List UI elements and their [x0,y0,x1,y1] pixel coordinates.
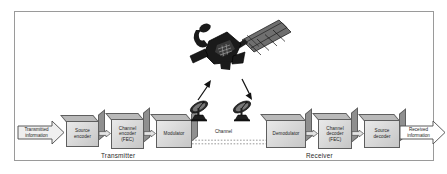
block-label-source-decoder: Sourcedecoder [373,128,392,139]
block-channel-decoder: Channeldecoder(FEC) [318,119,352,149]
diagram-canvas: Transmittedinformation Sourceencoder Cha… [0,0,447,174]
group-label-transmitter: Transmitter [101,152,135,159]
connector-arrow-3 [306,130,318,137]
diagram-frame: Transmittedinformation Sourceencoder Cha… [14,11,434,161]
block-modulator: Modulator [156,120,192,148]
connector-arrow-1 [99,130,111,137]
block-side-face [351,107,358,143]
transmitted-information-arrow: Transmittedinformation [17,120,65,145]
received-information-label: Receivedinformation [400,120,446,145]
uplink-arrow-icon [195,79,215,101]
block-front-face: Modulator [156,120,192,148]
block-label-source-encoder: Sourceencoder [73,128,92,139]
uplink-dish-icon [187,100,211,122]
block-channel-encoder: Channelencoder(FEC) [111,119,144,149]
transmitted-information-label: Transmittedinformation [17,120,65,145]
block-source-decoder: Sourcedecoder [364,120,400,148]
block-front-face: Demodulator [266,120,306,148]
block-label-channel-decoder: Channeldecoder(FEC) [325,126,344,143]
group-label-receiver: Receiver [306,152,333,159]
block-label-demodulator: Demodulator [272,131,301,137]
block-source-encoder: Sourceencoder [66,121,99,147]
satellite-icon [187,18,292,80]
downlink-arrow-icon [237,78,257,101]
block-label-channel-encoder: Channelencoder(FEC) [118,126,137,143]
channel-label: Channel [214,129,233,134]
block-front-face: Channelencoder(FEC) [111,119,144,149]
connector-arrow-4 [352,130,364,137]
block-front-face: Sourceencoder [66,121,99,147]
block-label-modulator: Modulator [163,131,186,137]
block-side-face [143,107,150,143]
connector-arrow-2 [144,130,156,137]
block-front-face: Sourcedecoder [364,120,400,148]
received-information-arrow: Receivedinformation [400,120,446,145]
block-demodulator: Demodulator [266,120,306,148]
downlink-dish-icon [230,100,254,122]
block-front-face: Channeldecoder(FEC) [318,119,352,149]
